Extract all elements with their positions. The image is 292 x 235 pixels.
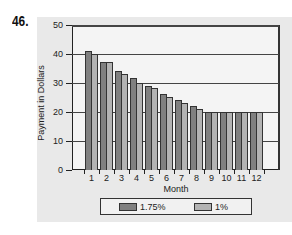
x-tick-label: 7 [174, 173, 190, 183]
plot-top-border [72, 25, 279, 27]
bar-series-2-month-10 [226, 112, 233, 170]
y-tick-label: 40 [43, 49, 63, 59]
x-tick-label: 9 [204, 173, 220, 183]
legend-swatch-series-1 [119, 203, 137, 211]
y-tick-label: 50 [43, 20, 63, 30]
y-tick-label: 20 [43, 107, 63, 117]
y-tick [66, 54, 72, 55]
x-tick-label: 4 [129, 173, 145, 183]
bar-series-2-month-9 [211, 112, 218, 170]
y-tick-label: 10 [43, 136, 63, 146]
bar-series-2-month-11 [241, 112, 248, 170]
x-tick [264, 170, 265, 174]
plot-right-border [278, 25, 280, 170]
bar-series-2-month-8 [196, 109, 203, 170]
x-axis-title: Month [163, 184, 188, 194]
y-tick [66, 141, 72, 142]
y-tick [66, 170, 72, 171]
y-tick-label: 30 [43, 78, 63, 88]
bar-series-2-month-2 [106, 62, 113, 170]
x-tick-label: 11 [234, 173, 250, 183]
bar-series-2-month-4 [136, 83, 143, 170]
x-tick-label: 5 [144, 173, 160, 183]
legend-item-series-2: 1% [194, 202, 228, 212]
bar-series-2-month-6 [166, 97, 173, 170]
gridline [72, 54, 279, 56]
legend-item-series-1: 1.75% [119, 202, 166, 212]
legend: 1.75% 1% [100, 198, 252, 215]
bar-series-2-month-3 [121, 74, 128, 170]
x-tick-label: 6 [159, 173, 175, 183]
question-number: 46. [12, 13, 29, 29]
bar-series-2-month-12 [256, 112, 263, 170]
x-tick-label: 2 [99, 173, 115, 183]
x-tick-label: 1 [84, 173, 100, 183]
x-tick-label: 12 [249, 173, 265, 183]
x-tick-label: 3 [114, 173, 130, 183]
y-tick-label: 0 [43, 165, 63, 175]
bar-series-2-month-7 [181, 103, 188, 170]
bar-series-2-month-5 [151, 88, 158, 170]
x-tick-label: 10 [219, 173, 235, 183]
legend-swatch-series-2 [194, 203, 212, 211]
x-tick-label: 8 [189, 173, 205, 183]
y-tick [66, 25, 72, 26]
y-tick [66, 112, 72, 113]
y-axis-title: Payment in Dollars [36, 65, 46, 141]
bar-series-2-month-1 [91, 54, 98, 170]
legend-label-series-2: 1% [215, 202, 228, 212]
y-tick [66, 83, 72, 84]
legend-label-series-1: 1.75% [140, 202, 166, 212]
